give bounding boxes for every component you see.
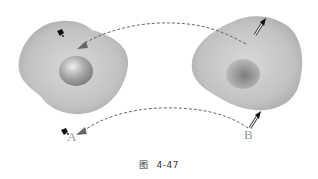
figure-caption: 图4-47 <box>0 158 318 171</box>
caption-number: 4-47 <box>157 160 179 170</box>
caption-prefix: 图 <box>139 160 149 170</box>
raised-sphere <box>59 56 93 86</box>
bottom-dashed-arrow <box>82 108 248 132</box>
diagram-canvas <box>0 0 318 179</box>
concave-dimple <box>226 59 260 89</box>
bottom-arrow-head <box>76 127 87 135</box>
pen-icon-bottom <box>250 111 261 128</box>
label-a: A <box>67 129 76 145</box>
label-b: B <box>244 127 253 143</box>
